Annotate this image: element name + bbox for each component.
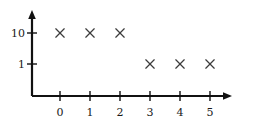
data-point-marker <box>206 60 214 68</box>
x-tick-label-5: 5 <box>207 106 214 119</box>
data-point-marker <box>116 29 124 37</box>
scatter-chart: 10 1 0 1 2 3 4 5 <box>0 0 255 124</box>
y-tick-label-10: 10 <box>11 27 25 40</box>
x-tick-label-0: 0 <box>57 106 64 119</box>
x-axis-arrow-icon <box>223 92 232 100</box>
data-point-layer <box>56 29 214 68</box>
x-tick-label-4: 4 <box>177 106 184 119</box>
x-tick-label-3: 3 <box>147 106 154 119</box>
data-point-marker <box>56 29 64 37</box>
data-point-marker <box>86 29 94 37</box>
data-point-marker <box>176 60 184 68</box>
data-point-marker <box>146 60 154 68</box>
chart-canvas: 10 1 0 1 2 3 4 5 <box>0 0 255 124</box>
x-tick-label-2: 2 <box>117 106 124 119</box>
y-axis-arrow-icon <box>28 10 36 19</box>
y-tick-label-1: 1 <box>18 58 25 71</box>
x-tick-label-1: 1 <box>87 106 94 119</box>
